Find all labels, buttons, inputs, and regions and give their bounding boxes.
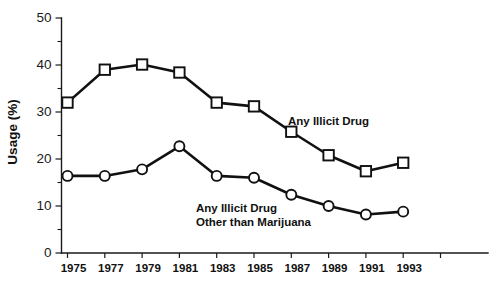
data-point-marker xyxy=(63,171,73,181)
data-point-marker xyxy=(249,173,259,183)
data-point-marker xyxy=(100,65,110,75)
x-tick-label: 1993 xyxy=(396,262,422,274)
y-tick-label: 20 xyxy=(36,151,51,166)
chart-page: 0102030405019751977197919811983198519871… xyxy=(0,0,495,281)
y-tick-label: 30 xyxy=(36,104,51,119)
x-tick-label: 1989 xyxy=(322,262,348,274)
series-annotation-1: Any Illicit Drug xyxy=(196,202,277,214)
x-tick-label: 1977 xyxy=(98,262,124,274)
x-tick-label: 1985 xyxy=(247,262,273,274)
data-point-marker xyxy=(212,97,222,107)
data-point-marker xyxy=(286,127,296,137)
data-point-marker xyxy=(398,158,408,168)
data-point-marker xyxy=(174,141,184,151)
data-point-marker xyxy=(137,59,147,69)
y-tick-label: 50 xyxy=(36,10,51,25)
data-point-marker xyxy=(62,97,72,107)
y-tick-label: 10 xyxy=(36,198,51,213)
data-point-marker xyxy=(137,164,147,174)
x-tick-label: 1975 xyxy=(61,262,87,274)
x-tick-label: 1981 xyxy=(173,262,199,274)
x-tick-label: 1983 xyxy=(210,262,236,274)
line-chart: 0102030405019751977197919811983198519871… xyxy=(0,0,495,281)
data-point-marker xyxy=(286,190,296,200)
y-tick-label: 40 xyxy=(36,57,51,72)
data-point-marker xyxy=(249,101,259,111)
series-annotation-1: Other than Marijuana xyxy=(196,216,312,228)
data-point-marker xyxy=(212,171,222,181)
data-point-marker xyxy=(324,201,334,211)
x-tick-label: 1987 xyxy=(285,262,311,274)
series-annotation-0: Any Illicit Drug xyxy=(288,115,369,127)
data-point-marker xyxy=(323,150,333,160)
chart-labels: 0102030405019751977197919811983198519871… xyxy=(5,10,422,274)
data-point-marker xyxy=(361,209,371,219)
data-point-marker xyxy=(398,207,408,217)
data-point-marker xyxy=(174,67,184,77)
chart-series xyxy=(62,59,408,219)
data-point-marker xyxy=(361,166,371,176)
x-tick-label: 1991 xyxy=(359,262,385,274)
data-point-marker xyxy=(100,171,110,181)
x-tick-label: 1979 xyxy=(135,262,161,274)
y-tick-label: 0 xyxy=(44,245,52,260)
y-axis-title: Usage (%) xyxy=(5,99,20,164)
